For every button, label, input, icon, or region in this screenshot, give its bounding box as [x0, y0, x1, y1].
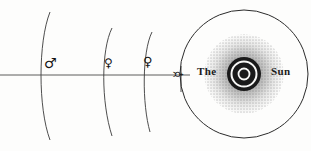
sun-center-dot [241, 71, 246, 76]
sun-label-the: The [197, 65, 217, 77]
venus-orbit-arc [144, 32, 152, 132]
venus-symbol: ♀ [143, 55, 153, 68]
earth-orbit-arc [104, 28, 112, 136]
engraving-canvas [0, 0, 311, 151]
mercury-symbol: ☿ [172, 71, 184, 78]
earth-symbol: ♀ [104, 57, 113, 69]
mars-orbit-arc [41, 12, 50, 140]
solar-system-engraving: The Sun ♂ ♀ ♀ ☿ [0, 0, 311, 151]
mars-symbol: ♂ [44, 56, 57, 70]
sun-label-sun: Sun [271, 65, 291, 77]
